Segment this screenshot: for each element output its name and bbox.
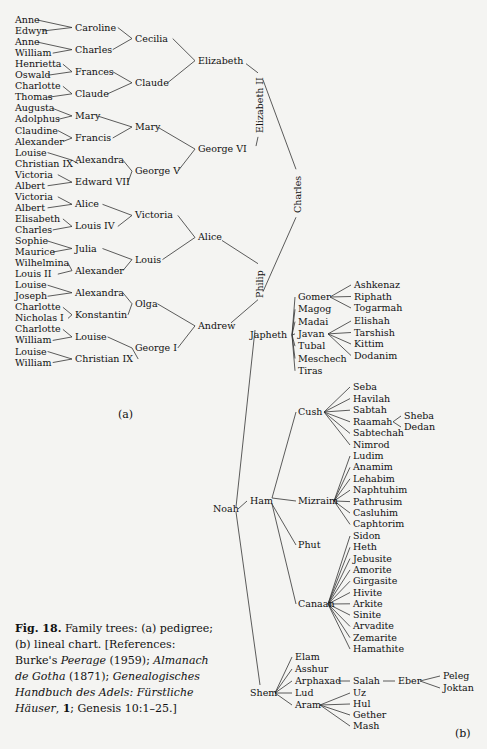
ancestor-name: Oswald bbox=[15, 69, 51, 80]
descendant-name: Riphath bbox=[354, 291, 392, 302]
descendant-name: Salah bbox=[353, 675, 380, 686]
descendant-name: Casluhim bbox=[353, 507, 398, 518]
ancestor-name: Augusta bbox=[15, 102, 55, 113]
parent-name: Philip bbox=[254, 270, 265, 298]
descendant-name: Gether bbox=[353, 709, 386, 720]
grandson-name: Asshur bbox=[295, 663, 328, 674]
descendant-name: Uz bbox=[353, 687, 366, 698]
descendant-name: Caphtorim bbox=[353, 518, 404, 529]
grandson-name: Cush bbox=[298, 406, 322, 417]
ancestor-name: Claude bbox=[135, 77, 169, 88]
grandson-name: Tubal bbox=[298, 340, 325, 351]
ancestor-name: Caroline bbox=[75, 22, 116, 33]
descendant-name: Sabtah bbox=[353, 404, 387, 415]
ancestor-name: Louis bbox=[135, 254, 161, 265]
ancestor-name: Henrietta bbox=[15, 58, 62, 69]
ancestor-name: Frances bbox=[75, 66, 114, 77]
grandson-name: Meschech bbox=[298, 353, 347, 364]
grandson-name: Lud bbox=[295, 687, 314, 698]
grandson-name: Elam bbox=[295, 651, 320, 662]
ancestor-name: Louise bbox=[15, 279, 47, 290]
ancestor-name: Louise bbox=[75, 331, 107, 342]
ancestor-name: Albert bbox=[15, 202, 45, 213]
ancestor-name: Claude bbox=[75, 88, 109, 99]
ancestor-name: Victoria bbox=[15, 169, 53, 180]
descendant-name: Mash bbox=[353, 720, 379, 731]
grandson-name: Magog bbox=[298, 303, 331, 314]
ancestor-name: Claudine bbox=[15, 125, 58, 136]
ancestor-name: Adolphus bbox=[15, 113, 60, 124]
descendant-name: Sinite bbox=[353, 609, 381, 620]
ancestor-name: Anne bbox=[15, 36, 40, 47]
ancestor-name: Joseph bbox=[15, 290, 47, 301]
ancestor-name: Elizabeth bbox=[198, 55, 243, 66]
descendant-name: Peleg bbox=[443, 670, 469, 681]
descendant-name: Sidon bbox=[353, 530, 380, 541]
descendant-name: Havilah bbox=[353, 393, 390, 404]
descendant-name: Sheba bbox=[404, 410, 434, 421]
ancestor-name: Konstantin bbox=[75, 309, 127, 320]
ancestor-name: Elisabeth bbox=[15, 213, 60, 224]
grandson-name: Canaan bbox=[298, 598, 335, 609]
descendant-name: Elishah bbox=[354, 315, 390, 326]
ancestor-name: Louis II bbox=[15, 268, 52, 279]
descendant-name: Togarmah bbox=[354, 302, 402, 313]
descendant-name: Kittim bbox=[354, 338, 384, 349]
root-name: Noah bbox=[213, 503, 239, 514]
ancestor-name: Christian IX bbox=[15, 158, 73, 169]
grandson-name: Aram bbox=[295, 699, 321, 710]
ancestor-name: Louise bbox=[15, 147, 47, 158]
grandson-name: Mizraim bbox=[298, 495, 338, 506]
ancestor-name: George VI bbox=[198, 143, 247, 154]
descendant-name: Dedan bbox=[404, 421, 435, 432]
ancestor-name: George I bbox=[135, 342, 177, 353]
descendant-name: Girgasite bbox=[353, 575, 397, 586]
ancestor-name: Francis bbox=[75, 132, 111, 143]
ancestor-name: Alice bbox=[75, 198, 99, 209]
ancestor-name: Charles bbox=[15, 224, 52, 235]
family-trees-figure: AnneEdwynAnneWilliamHenriettaOswaldCharl… bbox=[0, 0, 487, 749]
grandson-name: Gomer bbox=[298, 291, 330, 302]
ancestor-name: Charlotte bbox=[15, 80, 61, 91]
son-name: Japheth bbox=[250, 329, 287, 340]
ancestor-name: Charlotte bbox=[15, 301, 61, 312]
ancestor-name: Cecilia bbox=[135, 33, 168, 44]
ancestor-name: Alexander bbox=[75, 265, 124, 276]
descendant-name: Hivite bbox=[353, 587, 382, 598]
ancestor-name: Maurice bbox=[15, 246, 55, 257]
descendant-name: Eber bbox=[398, 675, 421, 686]
parent-name: Elizabeth II bbox=[254, 77, 265, 133]
son-name: Shem bbox=[250, 687, 277, 698]
caption-fig-number: Fig. 18. bbox=[15, 622, 61, 635]
ancestor-name: Wilhelmina bbox=[15, 257, 69, 268]
ancestor-name: Sophie bbox=[15, 235, 48, 246]
descendant-name: Arvadite bbox=[353, 620, 394, 631]
ancestor-name: William bbox=[15, 357, 51, 368]
lineal-label: (b) bbox=[455, 727, 471, 740]
descendant-name: Amorite bbox=[353, 564, 392, 575]
ancestor-name: Andrew bbox=[198, 320, 235, 331]
ancestor-name: Alexandra bbox=[75, 287, 124, 298]
ancestor-name: Mary bbox=[135, 121, 160, 132]
ancestor-name: George V bbox=[135, 165, 180, 176]
grandson-name: Phut bbox=[298, 539, 320, 550]
descendant-name: Anamim bbox=[353, 461, 393, 472]
descendant-name: Hamathite bbox=[353, 643, 404, 654]
ancestor-name: Christian IX bbox=[75, 353, 133, 364]
descendant-name: Nimrod bbox=[353, 439, 390, 450]
grandson-name: Javan bbox=[298, 328, 325, 339]
figure-caption: Fig. 18. Family trees: (a) pedigree; (b)… bbox=[15, 621, 215, 717]
ancestor-name: William bbox=[15, 47, 51, 58]
ancestor-name: Louise bbox=[15, 346, 47, 357]
descendant-name: Jebusite bbox=[353, 553, 392, 564]
descendant-name: Lehabim bbox=[353, 473, 395, 484]
descendant-name: Seba bbox=[353, 381, 377, 392]
ancestor-name: Julia bbox=[75, 243, 97, 254]
ancestor-name: Nicholas I bbox=[15, 312, 64, 323]
ancestor-name: Alexander bbox=[15, 136, 64, 147]
descendant-name: Raamah bbox=[353, 416, 393, 427]
grandson-name: Tiras bbox=[298, 365, 322, 376]
descendant-name: Arkite bbox=[353, 598, 383, 609]
ancestor-name: Albert bbox=[15, 180, 45, 191]
descendant-name: Heth bbox=[353, 541, 377, 552]
